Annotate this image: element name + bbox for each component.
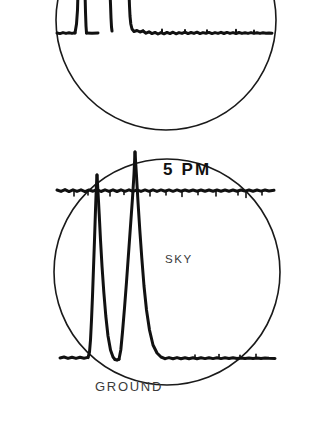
figure-root: 5 PM SKY GROUND (0, 0, 333, 431)
sky-label: SKY (165, 253, 193, 265)
lower-right-ground-shelf (165, 358, 275, 359)
oscilloscope-figure: 5 PM SKY GROUND (0, 0, 333, 431)
lower-left-ground-shelf (60, 357, 88, 358)
upper-left-ground-shelf (57, 33, 75, 34)
time-label: 5 PM (163, 160, 211, 179)
upper-left-falling-edge (85, 0, 87, 33)
ground-label: GROUND (95, 379, 163, 394)
figure-background (0, 0, 333, 431)
upper-main-rising-edge (110, 0, 112, 31)
